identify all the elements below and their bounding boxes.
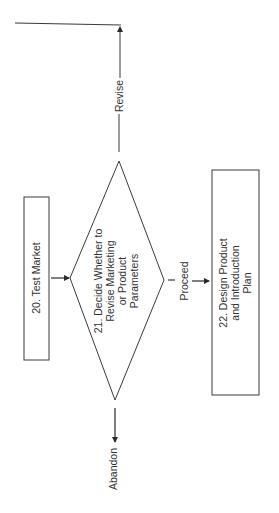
node-22-line-2: and Introduction (229, 227, 241, 339)
revise-loop-top-line (15, 23, 121, 25)
edge-label-proceed: Proceed (178, 254, 192, 308)
node-22-line-1: 22. Design Product (217, 227, 229, 339)
node-21-line-1: 21. Decide Whether to (92, 216, 104, 346)
node-21-line-2: Revise Marketing (104, 216, 116, 346)
edge-label-abandon: Abandon (107, 441, 121, 497)
node-21-line-4: Parameters (128, 216, 140, 346)
edge-label-revise: Revise (113, 72, 127, 120)
node-21-line-3: or Product (116, 216, 128, 346)
node-22-line-3: Plan (241, 227, 253, 339)
node-20-label: 20. Test Market (30, 211, 44, 345)
node-21-label: 21. Decide Whether to Revise Marketing o… (92, 216, 142, 346)
node-22-label: 22. Design Product and Introduction Plan (217, 227, 255, 339)
node-20-line-1: 20. Test Market (30, 242, 42, 314)
